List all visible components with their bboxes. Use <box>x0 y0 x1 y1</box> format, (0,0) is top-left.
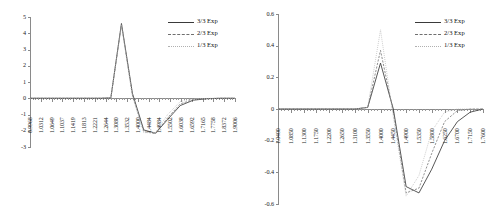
legend-label: 2/3 Exp <box>197 29 218 37</box>
legend-swatch-3-3-exp-icon <box>415 22 441 23</box>
legend-label: 3/3 Exp <box>197 17 218 25</box>
legend-swatch-1-3-exp-icon <box>415 46 441 47</box>
chart-panel-right: 0.60.40.20-0.2-0.4-0.6 1.04001.08501.130… <box>251 0 501 219</box>
series-line <box>278 63 483 193</box>
legend-swatch-1-3-exp-icon <box>168 46 194 47</box>
legend-label: 1/3 Exp <box>197 41 218 49</box>
series-line <box>30 24 235 134</box>
legend-swatch-3-3-exp-icon <box>168 22 194 23</box>
legend-label: 2/3 Exp <box>444 29 465 37</box>
chart-panel-left: 543210-1-2-3 0.99681.03121.06491.10371.1… <box>0 0 250 219</box>
legend-swatch-2-3-exp-icon <box>168 34 194 35</box>
legend-swatch-2-3-exp-icon <box>415 34 441 35</box>
legend-label: 1/3 Exp <box>444 41 465 49</box>
legend-label: 3/3 Exp <box>444 17 465 25</box>
series-line <box>278 30 483 196</box>
dual-chart-figure: 543210-1-2-3 0.99681.03121.06491.10371.1… <box>0 0 501 219</box>
series-line <box>278 50 483 193</box>
